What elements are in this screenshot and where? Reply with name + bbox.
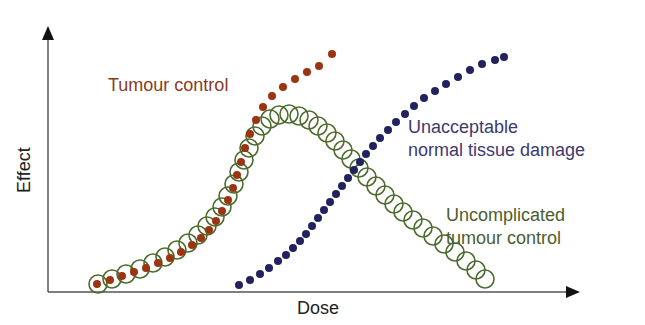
- dot-marker: [106, 276, 114, 284]
- x-axis-label: Dose: [297, 298, 339, 319]
- y-axis: [42, 26, 54, 292]
- dot-marker: [410, 102, 418, 110]
- dot-marker: [338, 182, 346, 190]
- label-uncomplicated-control: Uncomplicated tumour control: [446, 204, 565, 250]
- dot-marker: [431, 87, 439, 95]
- dot-marker: [268, 92, 276, 100]
- dot-marker: [454, 73, 462, 81]
- dot-marker: [246, 276, 254, 284]
- dot-marker: [328, 50, 336, 58]
- dot-marker: [500, 53, 508, 61]
- dot-marker: [218, 207, 226, 215]
- dot-marker: [188, 241, 196, 249]
- dot-marker: [308, 222, 316, 230]
- dot-marker: [442, 80, 450, 88]
- x-axis-arrow-icon: [566, 286, 580, 298]
- dot-marker: [265, 264, 273, 272]
- dot-marker: [256, 270, 264, 278]
- dot-marker: [224, 196, 232, 204]
- y-axis-arrow-icon: [42, 26, 54, 40]
- dot-marker: [154, 259, 162, 267]
- dot-marker: [326, 198, 334, 206]
- dot-marker: [362, 150, 370, 158]
- dot-marker: [246, 130, 254, 138]
- x-axis: [48, 286, 580, 298]
- dot-marker: [376, 134, 384, 142]
- dot-marker: [205, 226, 213, 234]
- dot-marker: [392, 118, 400, 126]
- label-unacceptable-line2: normal tissue damage: [408, 139, 585, 162]
- open-circle-marker: [290, 107, 308, 125]
- dot-marker: [491, 56, 499, 64]
- dot-marker: [130, 268, 138, 276]
- dot-marker: [229, 184, 237, 192]
- chart-canvas: [0, 0, 645, 325]
- dot-marker: [197, 234, 205, 242]
- label-unacceptable-line1: Unacceptable: [408, 116, 585, 139]
- dot-marker: [384, 126, 392, 134]
- dot-marker: [279, 83, 287, 91]
- series-unacceptable-normal-tissue-damage: [235, 53, 508, 289]
- dot-marker: [233, 171, 241, 179]
- label-uncomplicated-line1: Uncomplicated: [446, 204, 565, 227]
- label-unacceptable-damage: Unacceptable normal tissue damage: [408, 116, 585, 162]
- dot-marker: [320, 206, 328, 214]
- dot-marker: [212, 217, 220, 225]
- dot-marker: [344, 174, 352, 182]
- dot-marker: [291, 75, 299, 83]
- dot-marker: [302, 230, 310, 238]
- dot-marker: [118, 272, 126, 280]
- dot-marker: [420, 94, 428, 102]
- dot-marker: [303, 68, 311, 76]
- dot-marker: [350, 166, 358, 174]
- dot-marker: [274, 257, 282, 265]
- dot-marker: [466, 66, 474, 74]
- dot-marker: [93, 280, 101, 288]
- dot-marker: [282, 251, 290, 259]
- dot-marker: [237, 158, 245, 166]
- dot-marker: [478, 60, 486, 68]
- dot-marker: [314, 214, 322, 222]
- dot-marker: [252, 116, 260, 124]
- dot-marker: [296, 237, 304, 245]
- dot-marker: [166, 254, 174, 262]
- y-axis-label: Effect: [14, 147, 35, 193]
- label-uncomplicated-line2: tumour control: [446, 227, 565, 250]
- dot-marker: [369, 142, 377, 150]
- dot-marker: [241, 144, 249, 152]
- dot-marker: [332, 190, 340, 198]
- dot-marker: [235, 281, 243, 289]
- dot-marker: [289, 244, 297, 252]
- label-tumour-control: Tumour control: [108, 75, 228, 96]
- dot-marker: [315, 62, 323, 70]
- dot-marker: [356, 158, 364, 166]
- dot-marker: [177, 248, 185, 256]
- dot-marker: [142, 264, 150, 272]
- dot-marker: [259, 103, 267, 111]
